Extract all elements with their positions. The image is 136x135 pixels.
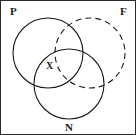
region-marker-x: X (46, 61, 53, 71)
set-label-p: P (10, 6, 17, 17)
set-label-n: N (65, 122, 73, 133)
circle-f (55, 18, 125, 88)
circle-n (34, 49, 104, 119)
circle-p (13, 18, 83, 88)
venn-diagram-canvas (1, 1, 136, 135)
set-label-f: F (120, 6, 127, 17)
venn-diagram-figure: P F N X (0, 0, 136, 135)
